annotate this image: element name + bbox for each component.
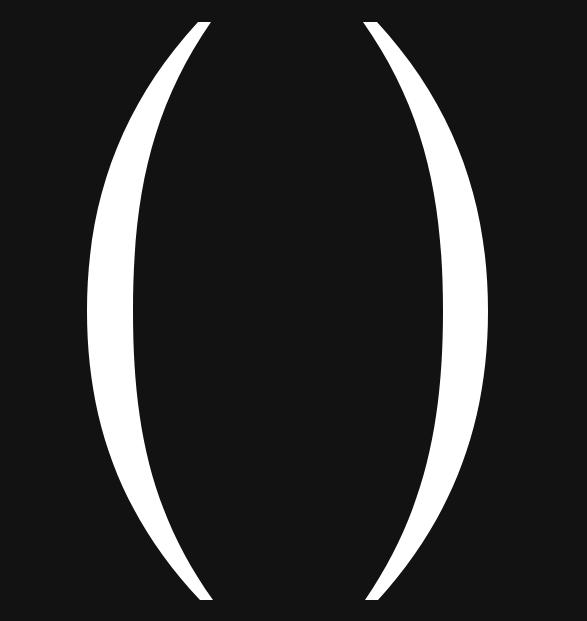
right-parenthesis-icon bbox=[363, 22, 488, 600]
parentheses-graphic bbox=[0, 0, 587, 621]
canvas: ( ) bbox=[0, 0, 587, 621]
left-parenthesis-icon bbox=[87, 22, 213, 600]
